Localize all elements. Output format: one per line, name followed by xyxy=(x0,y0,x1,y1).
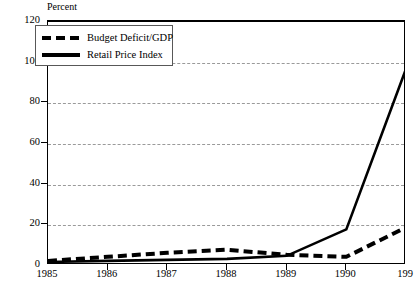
solid-line-swatch-icon xyxy=(42,49,80,60)
series-line-budget-deficit-gdp xyxy=(48,227,404,261)
y-tick-mark-20 xyxy=(41,223,47,224)
x-tick-label-1985: 1985 xyxy=(22,268,72,280)
x-tick-label-199: 199 xyxy=(380,268,418,280)
y-tick-label-20: 20 xyxy=(2,217,40,228)
legend-label-retail-price-index: Retail Price Index xyxy=(87,49,163,61)
chart-legend: Budget Deficit/GDP Retail Price Index xyxy=(35,25,173,66)
x-tick-mark-1990 xyxy=(345,264,346,270)
y-tick-label-40: 40 xyxy=(2,177,40,188)
dashed-line-swatch-icon xyxy=(42,32,80,43)
y-tick-mark-60 xyxy=(41,142,47,143)
y-tick-mark-80 xyxy=(41,101,47,102)
y-tick-label-60: 60 xyxy=(2,136,40,147)
legend-item-retail-price-index: Retail Price Index xyxy=(42,46,166,63)
y-axis-unit-label: Percent xyxy=(47,1,77,12)
y-tick-mark-40 xyxy=(41,183,47,184)
x-tick-mark-1986 xyxy=(107,264,108,270)
x-tick-mark-1988 xyxy=(226,264,227,270)
y-tick-label-120: 120 xyxy=(2,14,40,25)
y-tick-label-80: 80 xyxy=(2,95,40,106)
legend-item-budget-deficit-gdp: Budget Deficit/GDP xyxy=(42,29,166,46)
line-chart-figure: Percent 020406080100120 1985198619871988… xyxy=(0,0,418,290)
legend-label-budget-deficit-gdp: Budget Deficit/GDP xyxy=(87,32,173,44)
footnote-clipped xyxy=(2,283,416,290)
x-tick-mark-1987 xyxy=(166,264,167,270)
series-line-retail-price-index xyxy=(48,69,404,262)
x-tick-mark-1989 xyxy=(286,264,287,270)
